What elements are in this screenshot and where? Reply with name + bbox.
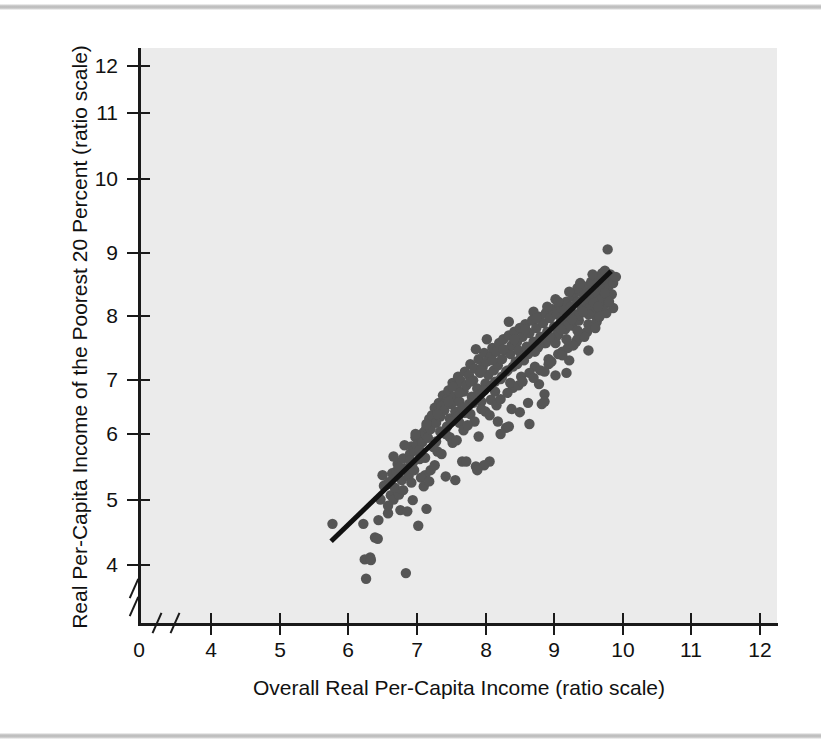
plot-panel bbox=[141, 48, 777, 625]
x-axis-title: Overall Real Per-Capita Income (ratio sc… bbox=[141, 676, 777, 700]
x-tick-label-6: 6 bbox=[328, 639, 368, 660]
y-tick-8 bbox=[127, 315, 150, 317]
x-tick-label-10: 10 bbox=[603, 639, 643, 660]
x-tick-label-7: 7 bbox=[397, 639, 437, 660]
y-tick-12 bbox=[127, 65, 150, 67]
x-tick-9 bbox=[553, 613, 555, 635]
y-axis-line bbox=[138, 48, 141, 626]
y-tick-4 bbox=[127, 564, 150, 566]
x-tick-4 bbox=[210, 613, 212, 635]
scatter-plot-figure: 121110987654 0456789101112 Overall Real … bbox=[0, 0, 821, 749]
x-tick-8 bbox=[485, 613, 487, 635]
x-tick-10 bbox=[622, 613, 624, 635]
y-axis-title: Real Per-Capita Income of the Poorest 20… bbox=[68, 37, 92, 637]
y-tick-5 bbox=[127, 499, 150, 501]
x-tick-label-4: 4 bbox=[191, 639, 231, 660]
x-tick-label-0: 0 bbox=[119, 639, 159, 660]
x-tick-11 bbox=[690, 613, 692, 635]
x-tick-12 bbox=[759, 613, 761, 635]
x-tick-label-12: 12 bbox=[740, 639, 780, 660]
x-tick-label-5: 5 bbox=[260, 639, 300, 660]
x-tick-label-11: 11 bbox=[671, 639, 711, 660]
x-axis-line bbox=[138, 623, 778, 626]
y-tick-7 bbox=[127, 379, 150, 381]
x-tick-6 bbox=[347, 613, 349, 635]
x-tick-5 bbox=[279, 613, 281, 635]
x-tick-label-8: 8 bbox=[466, 639, 506, 660]
y-tick-6 bbox=[127, 433, 150, 435]
x-tick-7 bbox=[416, 613, 418, 635]
y-tick-11 bbox=[127, 112, 150, 114]
y-tick-10 bbox=[127, 178, 150, 180]
x-tick-label-9: 9 bbox=[534, 639, 574, 660]
y-tick-9 bbox=[127, 252, 150, 254]
